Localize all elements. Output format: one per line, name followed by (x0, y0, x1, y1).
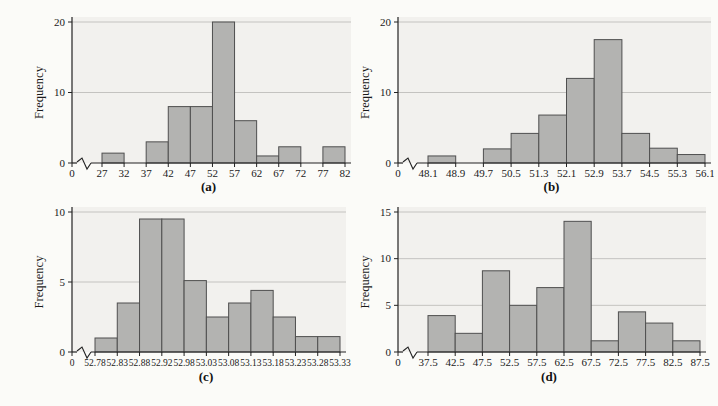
x-tick-label: 37.5 (418, 356, 438, 368)
x-tick-label: 52.9 (585, 167, 605, 178)
y-tick-label: 0 (386, 346, 392, 358)
bar-a-0 (102, 153, 124, 163)
x-tick-label: 53.23 (285, 358, 307, 368)
x-tick-label: 82.5 (663, 356, 683, 368)
bar-d-8 (646, 323, 673, 352)
y-tick-label: 0 (60, 346, 66, 358)
x-tick-label: 0 (69, 167, 75, 178)
bar-a-8 (279, 147, 301, 163)
x-tick-label: 47.5 (473, 356, 493, 368)
bar-b-8 (650, 148, 678, 163)
bar-b-2 (483, 149, 511, 163)
x-tick-label: 42.5 (446, 356, 466, 368)
x-tick-label: 53.03 (196, 358, 218, 368)
panel-b: 01020048.148.949.750.551.352.152.953.754… (358, 8, 714, 203)
x-tick-label: 53.28 (307, 358, 329, 368)
y-tick-label: 10 (380, 86, 392, 98)
x-tick-label: 47 (185, 167, 197, 178)
bar-b-0 (428, 156, 456, 163)
x-tick-label: 52.1 (557, 167, 576, 178)
x-tick-label: 53.13 (240, 358, 262, 368)
x-tick-label: 42 (163, 167, 174, 178)
x-tick-label: 55.3 (668, 167, 688, 178)
caption-c: (c) (72, 369, 340, 385)
y-tick-label: 5 (60, 276, 66, 288)
bar-d-1 (455, 333, 482, 352)
bar-d-2 (482, 271, 509, 352)
x-tick-label: 49.7 (474, 167, 494, 178)
bar-c-2 (140, 219, 162, 352)
y-tick-label: 0 (386, 157, 392, 169)
histogram-b: 01020048.148.949.750.551.352.152.953.754… (358, 8, 714, 178)
bar-c-4 (184, 281, 206, 352)
bar-d-6 (591, 341, 618, 352)
x-tick-label: 32 (119, 167, 130, 178)
bar-a-6 (235, 121, 257, 163)
x-tick-label: 53.08 (218, 358, 240, 368)
histogram-d: 051015037.542.547.552.557.562.567.572.57… (358, 198, 714, 368)
bar-c-9 (295, 337, 317, 352)
panel-d: 051015037.542.547.552.557.562.567.572.57… (358, 198, 714, 393)
x-tick-label: 62 (251, 167, 262, 178)
bar-d-9 (673, 341, 700, 352)
y-tick-label: 20 (380, 16, 392, 28)
bar-a-7 (257, 156, 279, 163)
x-tick-label: 62.5 (554, 356, 574, 368)
x-tick-label: 50.5 (501, 167, 521, 178)
histogram-c: 0510052.7852.8352.8852.9252.9853.0353.08… (30, 198, 360, 368)
x-tick-label: 48.9 (446, 167, 466, 178)
y-tick-label: 10 (54, 86, 66, 98)
x-tick-label: 72.5 (609, 356, 629, 368)
bar-b-6 (594, 40, 622, 163)
x-tick-label: 56.1 (695, 167, 714, 178)
x-tick-label: 67.5 (582, 356, 602, 368)
x-tick-label: 67 (273, 167, 285, 178)
bar-c-5 (206, 317, 228, 352)
x-tick-label: 53.7 (612, 167, 632, 178)
y-tick-label: 10 (54, 206, 66, 218)
y-axis-title: Frequency (358, 65, 372, 119)
caption-a: (a) (72, 179, 345, 195)
bar-b-9 (677, 155, 705, 163)
bar-d-4 (537, 288, 564, 352)
x-tick-label: 57 (229, 167, 241, 178)
x-tick-label: 37 (141, 167, 153, 178)
caption-b: (b) (398, 179, 705, 195)
x-tick-label: 0 (395, 356, 401, 368)
x-tick-label: 53.33 (329, 358, 351, 368)
y-tick-label: 5 (386, 299, 392, 311)
bar-d-3 (510, 305, 537, 352)
y-tick-label: 10 (380, 252, 392, 264)
bar-a-4 (190, 107, 212, 163)
histogram-a: 010200273237424752576267727782Frequency (30, 8, 360, 178)
y-axis-title: Frequency (32, 65, 46, 119)
x-tick-label: 72 (295, 167, 306, 178)
x-tick-label: 52.88 (129, 358, 151, 368)
x-tick-label: 54.5 (640, 167, 660, 178)
bar-d-7 (618, 312, 645, 352)
x-tick-label: 52.5 (500, 356, 520, 368)
x-tick-label: 51.3 (529, 167, 549, 178)
four-histogram-figure: 010200273237424752576267727782Frequency … (0, 0, 718, 406)
x-tick-label: 52.78 (84, 358, 106, 368)
x-tick-label: 82 (340, 167, 351, 178)
bar-b-3 (511, 133, 539, 163)
x-tick-label: 87.5 (690, 356, 710, 368)
y-tick-label: 15 (380, 206, 392, 218)
x-tick-label: 57.5 (527, 356, 547, 368)
caption-d: (d) (398, 369, 700, 385)
bar-a-3 (168, 107, 190, 163)
y-tick-label: 0 (60, 157, 66, 169)
bar-d-5 (564, 221, 591, 352)
bar-a-2 (146, 142, 168, 163)
y-axis-title: Frequency (32, 255, 46, 309)
x-tick-label: 77 (317, 167, 329, 178)
bar-c-6 (229, 303, 251, 352)
x-tick-label: 53.18 (262, 358, 284, 368)
bar-b-7 (622, 133, 650, 163)
panel-a: 010200273237424752576267727782Frequency … (30, 8, 360, 203)
bar-c-7 (251, 290, 273, 352)
bar-b-5 (567, 78, 595, 163)
x-tick-label: 77.5 (636, 356, 656, 368)
panel-c: 0510052.7852.8352.8852.9252.9853.0353.08… (30, 198, 360, 393)
